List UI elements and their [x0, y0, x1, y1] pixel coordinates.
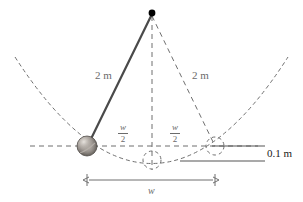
rod-length-label-left: 2 m: [95, 70, 112, 81]
half-width-left-denominator: 2: [118, 135, 128, 144]
rod-length-label-right: 2 m: [192, 70, 209, 81]
width-label: w: [148, 185, 155, 196]
half-width-right-denominator: 2: [170, 135, 180, 144]
half-width-label-right: w 2: [170, 123, 180, 144]
rod-dashed-right: [152, 16, 215, 146]
half-width-label-left: w 2: [118, 123, 128, 144]
half-width-right-numerator: w: [170, 123, 180, 132]
pendulum-diagram: 2 m 2 m w 2 w 2 0.1 m w: [0, 0, 303, 202]
diagram-canvas: [0, 0, 303, 202]
depth-label: 0.1 m: [267, 148, 292, 159]
half-width-left-numerator: w: [118, 123, 128, 132]
pivot-point: [149, 10, 156, 17]
